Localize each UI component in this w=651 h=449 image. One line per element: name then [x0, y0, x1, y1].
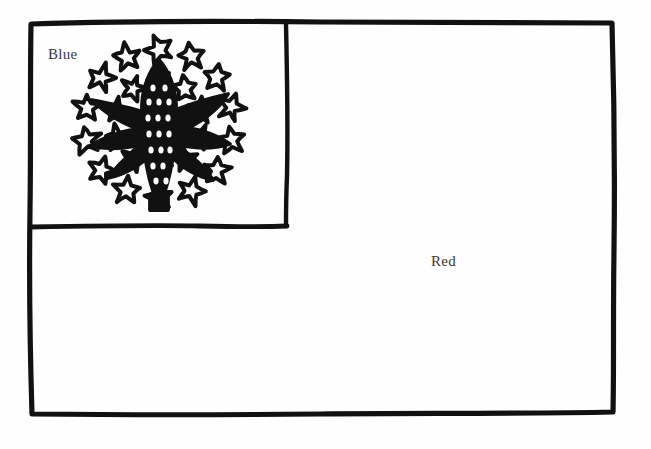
canton-right-edge	[286, 24, 287, 226]
canton-color-label: Blue	[48, 46, 78, 63]
canton-bottom-edge	[31, 226, 287, 227]
field-color-label: Red	[431, 253, 456, 270]
flag-drawing	[0, 0, 651, 449]
corn-stem	[150, 196, 168, 210]
coloring-page: Blue Red	[0, 0, 651, 449]
